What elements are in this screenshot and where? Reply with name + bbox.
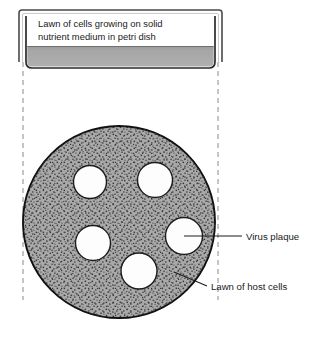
- solid-nutrient-medium: [27, 47, 213, 67]
- plaque-top-left: [74, 166, 107, 199]
- figure-canvas: Lawn of cells growing on solid nutrient …: [0, 0, 324, 340]
- label-lawn-of-host-cells: Lawn of host cells: [211, 281, 287, 292]
- plaque-mid-left: [76, 226, 111, 261]
- petri-dish-figure: Lawn of cells growing on solid nutrient …: [0, 0, 324, 340]
- petri-dish-cross-section: Lawn of cells growing on solid nutrient …: [19, 10, 222, 68]
- petri-dish-top-view: [23, 126, 215, 318]
- plaque-top-right: [138, 163, 173, 198]
- cross-section-caption-line2: nutrient medium in petri dish: [38, 31, 156, 42]
- cross-section-caption-line1: Lawn of cells growing on solid: [38, 18, 163, 29]
- label-virus-plaque: Virus plaque: [246, 231, 299, 242]
- plaque-bottom-center: [121, 253, 157, 289]
